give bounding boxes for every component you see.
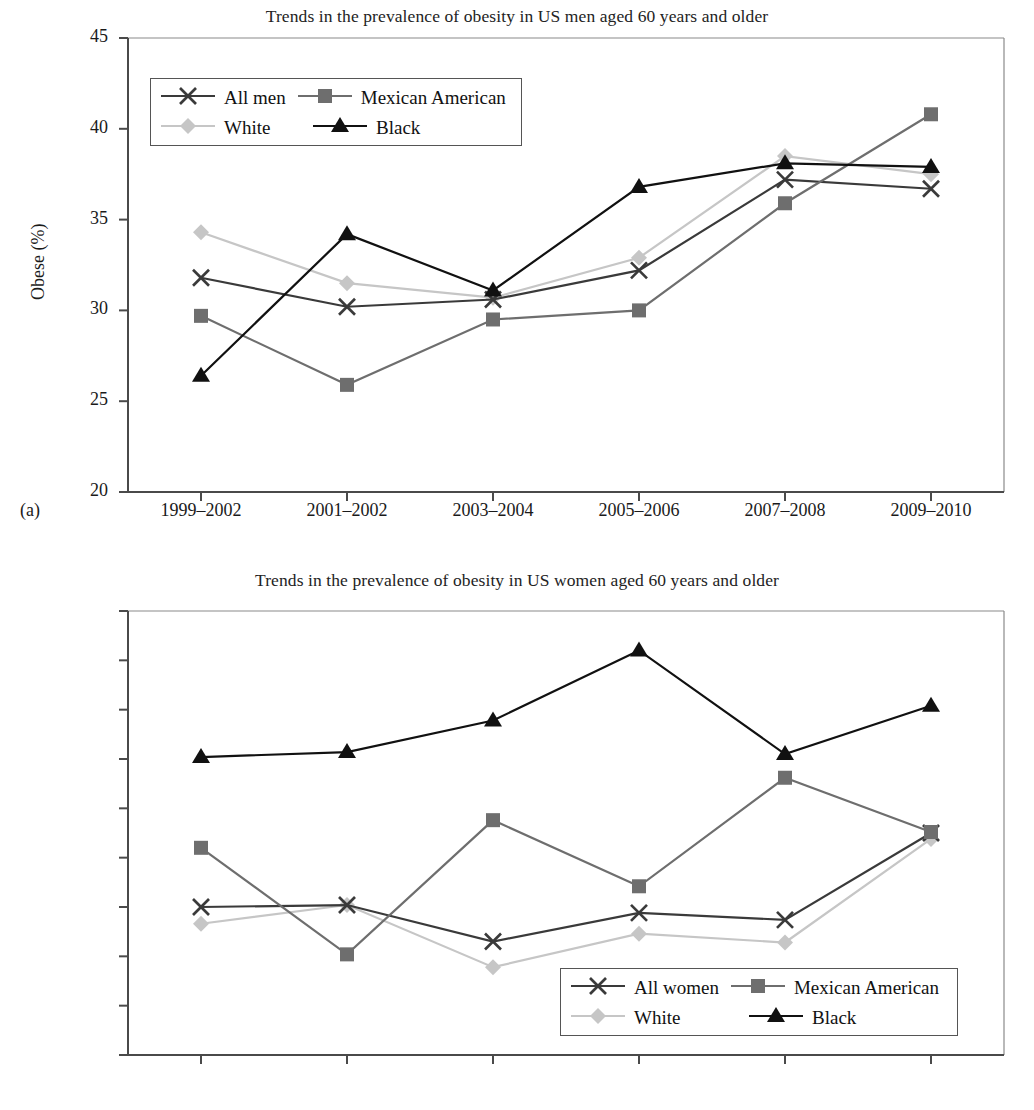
data-point-marker <box>192 748 210 763</box>
y-tick-label: 20 <box>62 480 108 501</box>
series-line <box>201 650 931 757</box>
series-line <box>201 114 931 385</box>
legend-swatch <box>159 83 217 113</box>
legend-entry-mexican-american[interactable]: Mexican American <box>296 83 516 113</box>
y-tick-label: 35 <box>62 208 108 229</box>
data-point-marker <box>485 959 501 975</box>
legend-symbol-square <box>296 83 354 109</box>
legend-label: White <box>217 117 280 139</box>
x-tick-label: 2009–2010 <box>851 500 1011 521</box>
chart-panel-women: Trends in the prevalence of obesity in U… <box>0 560 1034 1110</box>
series-line <box>201 833 931 942</box>
data-point-marker <box>193 916 209 932</box>
legend-symbol-square <box>729 973 787 999</box>
series-black <box>192 641 940 763</box>
data-point-marker <box>630 641 648 656</box>
data-point-marker <box>339 275 355 291</box>
data-point-marker <box>338 225 356 240</box>
chart-panel-men: Trends in the prevalence of obesity in U… <box>0 0 1034 545</box>
legend-label: Mexican American <box>787 977 949 999</box>
legend-label: All women <box>627 977 729 999</box>
chart-b-legend: All womenMexican AmericanWhiteBlack <box>560 968 958 1036</box>
legend-entry-black[interactable]: Black <box>311 113 430 143</box>
data-point-marker <box>194 309 208 323</box>
y-tick-label: 45 <box>62 26 108 47</box>
legend-symbol-diamond <box>159 113 217 139</box>
series-line <box>201 839 931 967</box>
y-tick-label: 25 <box>62 389 108 410</box>
legend-row: All womenMexican American <box>569 973 949 1003</box>
data-point-marker <box>631 926 647 942</box>
legend-symbol-diamond <box>569 1003 627 1029</box>
data-point-marker <box>486 813 500 827</box>
legend-row: WhiteBlack <box>569 1003 949 1033</box>
legend-swatch <box>311 113 369 143</box>
legend-entry-all-men[interactable]: All men <box>159 83 296 113</box>
legend-marker <box>751 979 765 993</box>
legend-marker <box>590 1008 606 1024</box>
legend-symbol-x <box>159 83 217 109</box>
legend-entry-black[interactable]: Black <box>747 1003 866 1033</box>
data-point-marker <box>340 378 354 392</box>
legend-marker <box>318 89 332 103</box>
legend-entry-all-women[interactable]: All women <box>569 973 729 1003</box>
legend-swatch <box>569 1003 627 1033</box>
data-point-marker <box>922 158 940 173</box>
data-point-marker <box>632 303 646 317</box>
legend-label: Black <box>805 1007 866 1029</box>
x-tick-label: 1999–2002 <box>121 500 281 521</box>
legend-symbol-x <box>569 973 627 999</box>
data-point-marker <box>340 947 354 961</box>
legend-marker <box>180 118 196 134</box>
series-mexican-american <box>194 771 938 962</box>
x-tick-label: 2001–2002 <box>267 500 427 521</box>
legend-entry-mexican-american[interactable]: Mexican American <box>729 973 949 1003</box>
series-all-men <box>193 172 939 315</box>
legend-symbol-triangle <box>311 113 369 139</box>
x-tick-label: 2005–2006 <box>559 500 719 521</box>
data-point-marker <box>924 107 938 121</box>
data-point-marker <box>194 841 208 855</box>
legend-marker <box>767 1007 785 1022</box>
series-line <box>201 163 931 375</box>
legend-marker <box>331 117 349 132</box>
legend-label: White <box>627 1007 690 1029</box>
data-point-marker <box>632 879 646 893</box>
data-point-marker <box>924 825 938 839</box>
data-point-marker <box>922 697 940 712</box>
data-point-marker <box>484 712 502 727</box>
legend-label: All men <box>217 87 296 109</box>
series-all-women <box>193 825 939 950</box>
data-point-marker <box>778 196 792 210</box>
x-tick-label: 2007–2008 <box>705 500 865 521</box>
legend-label: Black <box>369 117 430 139</box>
legend-row: All menMexican American <box>159 83 513 113</box>
legend-row: WhiteBlack <box>159 113 513 143</box>
y-tick-label: 30 <box>62 298 108 319</box>
chart-a-legend: All menMexican AmericanWhiteBlack <box>150 78 522 146</box>
legend-symbol-triangle <box>747 1003 805 1029</box>
series-mexican-american <box>194 107 938 392</box>
legend-swatch <box>747 1003 805 1033</box>
legend-entry-white[interactable]: White <box>159 113 311 143</box>
data-point-marker <box>486 312 500 326</box>
data-point-marker <box>778 771 792 785</box>
legend-swatch <box>296 83 354 113</box>
legend-swatch <box>729 973 787 1003</box>
legend-swatch <box>569 973 627 1003</box>
data-point-marker <box>777 935 793 951</box>
legend-label: Mexican American <box>354 87 516 109</box>
x-tick-label: 2003–2004 <box>413 500 573 521</box>
legend-swatch <box>159 113 217 143</box>
legend-entry-white[interactable]: White <box>569 1003 747 1033</box>
series-white <box>193 148 939 306</box>
series-line <box>201 156 931 298</box>
y-tick-label: 40 <box>62 117 108 138</box>
data-point-marker <box>193 224 209 240</box>
series-line <box>201 180 931 307</box>
